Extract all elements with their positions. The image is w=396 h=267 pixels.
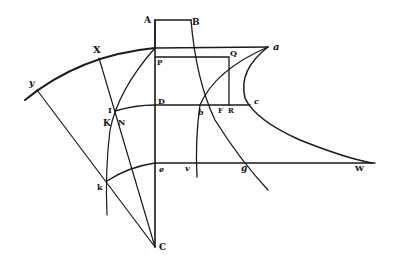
- curve-top-to-k: [106, 48, 155, 215]
- outer-arc-yX: [25, 48, 155, 100]
- label-K: K: [103, 118, 112, 128]
- label-Q: Q: [230, 48, 237, 58]
- label-D: D: [158, 96, 165, 106]
- label-e: e: [159, 164, 164, 174]
- label-X: X: [93, 44, 101, 55]
- curve-a-c-W: [244, 47, 372, 163]
- top-box: [155, 20, 191, 48]
- label-F: F: [218, 106, 223, 115]
- line-PQ: [155, 57, 229, 105]
- label-a: a: [273, 41, 279, 52]
- label-b: b: [198, 107, 204, 117]
- arc-I-to-D: [115, 105, 155, 111]
- label-A: A: [143, 15, 152, 25]
- label-N: N: [118, 117, 125, 127]
- geometric-figure: A B a X y P Q D I K N b F R c e v g W k …: [0, 0, 396, 267]
- label-v: v: [185, 163, 190, 173]
- line-top-to-a: [155, 47, 268, 48]
- label-P: P: [157, 58, 163, 67]
- label-I: I: [108, 105, 112, 115]
- label-c: c: [254, 96, 259, 106]
- label-y: y: [28, 78, 35, 88]
- label-g: g: [241, 163, 247, 173]
- label-W: W: [354, 163, 365, 173]
- label-C: C: [159, 242, 166, 252]
- label-B: B: [192, 17, 200, 27]
- label-k: k: [97, 182, 103, 192]
- line-y-to-C: [37, 90, 155, 247]
- label-R: R: [228, 106, 234, 115]
